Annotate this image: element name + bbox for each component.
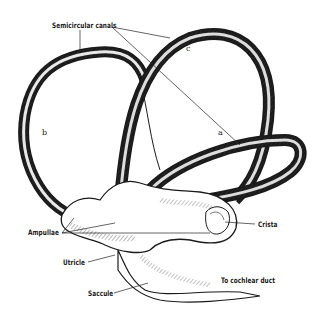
label-crista: Crista	[258, 220, 278, 229]
label-saccule: Saccule	[88, 289, 113, 298]
label-cochlear-duct: To cochlear duct	[221, 276, 275, 285]
label-canal-c: c	[186, 44, 190, 53]
label-canal-b: b	[42, 128, 47, 137]
label-canal-a: a	[218, 128, 223, 137]
inner-ear-illustration	[0, 0, 316, 315]
label-utricle: Utricle	[63, 258, 85, 267]
label-semicircular-canals: Semicircular canals	[52, 21, 117, 30]
crista-structure	[206, 207, 230, 234]
label-ampullae: Ampullae	[28, 228, 59, 237]
semicircular-canal-c	[120, 34, 269, 200]
